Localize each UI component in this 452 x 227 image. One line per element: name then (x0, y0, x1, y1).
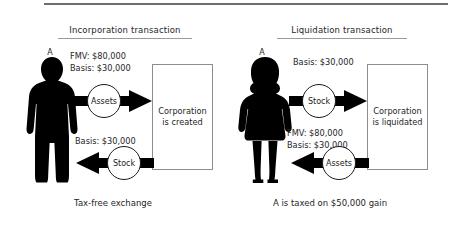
diagram-canvas: Incorporation transaction A Corporation … (0, 0, 452, 227)
caption-a-is-taxed: A is taxed on $50,000 gain (230, 198, 430, 208)
flow-node-label-assets-right: Assets (326, 159, 352, 168)
corporation-box-liquidated-text: Corporation is liquidated (372, 106, 422, 128)
corporation-box-liquidated: Corporation is liquidated (367, 64, 428, 170)
caption-tax-free-exchange: Tax-free exchange (18, 198, 208, 208)
panel-title-underline-liquidation (277, 38, 407, 39)
flow-node-label-assets-left: Assets (91, 97, 117, 106)
female-silhouette-icon (238, 57, 292, 187)
panel-title-incorporation: Incorporation transaction (55, 25, 195, 35)
note-stock-basis-right: Basis: $30,000 (293, 57, 354, 69)
person-label-a-left: A (40, 48, 60, 57)
flow-node-label-stock-left: Stock (113, 159, 135, 168)
person-label-a-right: A (252, 48, 272, 57)
flow-node-label-stock-right: Stock (308, 97, 330, 106)
corporation-box-created: Corporation is created (152, 64, 213, 170)
panel-title-liquidation: Liquidation transaction (272, 25, 412, 35)
panel-title-underline-incorporation (58, 38, 192, 39)
note-assets-values-left: FMV: $80,000 Basis: $30,000 (70, 51, 131, 74)
top-divider-rule (44, 3, 448, 5)
male-silhouette-icon (26, 57, 78, 187)
note-stock-basis-left: Basis: $30,000 (75, 136, 136, 148)
corporation-box-created-text: Corporation is created (158, 106, 206, 128)
